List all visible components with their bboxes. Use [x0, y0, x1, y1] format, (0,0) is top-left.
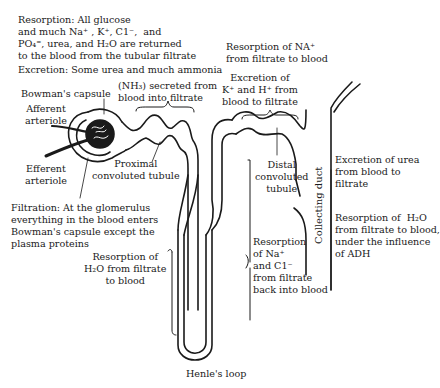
k-h-bracket: [242, 110, 298, 119]
nacl-bracket: [246, 160, 250, 320]
henles-loop-outer: [178, 230, 212, 360]
excretion-urea-label: Excretion of urea from blood to filtrate: [335, 154, 420, 190]
ascending-limb: [206, 120, 236, 235]
bowmans-capsule-label: Bowman's capsule: [21, 88, 111, 100]
resorption-na-distal-label: Resorption of NA⁺ from filtrate to blood: [226, 41, 328, 65]
distal-tubule-label: Distal convoluted tubule: [255, 159, 308, 195]
excretion-k-h-label: Excretion of K⁺ and H⁺ from blood to fil…: [222, 72, 298, 108]
water-loop-bracket: [168, 249, 176, 335]
resorption-h2o-adh-label: Resorption of H₂O from filtrate to blood…: [335, 212, 440, 260]
resorption-h2o-loop-label: Resorption of H₂O from filtrate to blood: [84, 251, 166, 287]
collecting-duct-label: Collecting duct: [313, 167, 324, 244]
glomerulus-shape: [86, 120, 114, 148]
henles-loop-label: Henle's loop: [186, 368, 246, 380]
resorption-nacl-label: Resorption of Na⁺ and C1⁻ from filtrate …: [253, 236, 328, 296]
nh3-label: (NH₃) secreted from blood into filtrate: [118, 80, 217, 104]
afferent-arteriole-label: Afferent arteriole: [25, 103, 67, 127]
resorption-top-label: Resorption: All glucose and much Na⁺ , K…: [18, 14, 196, 62]
proximal-tubule-label: Proximal convoluted tubule: [92, 158, 180, 182]
filtration-pointer: [80, 158, 88, 198]
excretion-top-label: Excretion: Some urea and much ammonia: [18, 64, 222, 76]
efferent-arteriole-label: Efferent arteriole: [25, 163, 67, 187]
filtration-label: Filtration: At the glomerulus everything…: [11, 202, 158, 250]
